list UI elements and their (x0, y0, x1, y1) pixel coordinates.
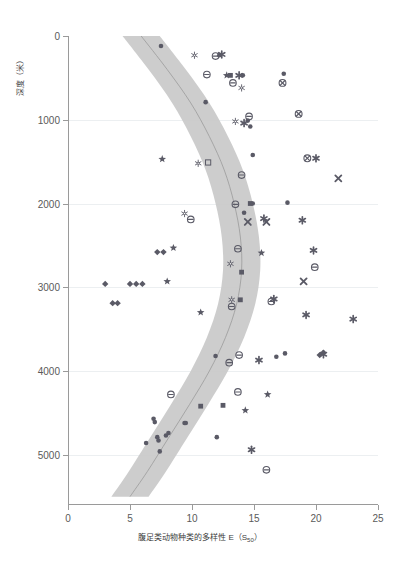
data-point (228, 261, 234, 267)
x-tick-label: 25 (372, 513, 383, 524)
y-tick-label: 2000 (38, 198, 60, 209)
x-tick (254, 505, 255, 510)
data-point (239, 270, 244, 275)
data-point (192, 52, 198, 58)
x-axis-title: 腹足类动物种类的多样性 E（S50） (138, 531, 262, 543)
data-point (229, 297, 235, 303)
y-axis-title: 深度（米） (14, 56, 25, 96)
x-tick (316, 505, 317, 510)
data-point (213, 354, 218, 359)
data-point (274, 354, 279, 359)
data-point (311, 247, 317, 254)
data-point (335, 175, 341, 181)
y-tick-label: 3000 (38, 282, 60, 293)
data-point (311, 264, 318, 271)
data-point (285, 200, 290, 205)
x-tick (192, 505, 193, 510)
data-point (156, 438, 161, 443)
data-point (350, 316, 356, 323)
y-tick-label: 1000 (38, 114, 60, 125)
data-point (281, 71, 286, 76)
data-point (235, 389, 242, 396)
data-point (228, 73, 233, 78)
scatter-chart: 深度（米） 腹足类动物种类的多样性 E（S50） 010002000300040… (0, 0, 400, 569)
data-point (303, 311, 309, 318)
x-tick (378, 505, 379, 510)
x-tick-label: 0 (65, 513, 71, 524)
data-point (242, 210, 247, 215)
data-point (235, 245, 242, 252)
data-point (245, 219, 251, 225)
data-point (163, 277, 171, 284)
x-tick-label: 10 (186, 513, 197, 524)
data-point (226, 359, 233, 366)
x-tick-label: 5 (127, 513, 133, 524)
series-circle-cross (279, 80, 311, 162)
plot-area: 010002000300040005000 0510152025 (68, 36, 378, 505)
series-open-snowflake (182, 52, 245, 303)
data-point (238, 172, 245, 179)
x-tick (68, 505, 69, 510)
data-point (250, 153, 255, 158)
data-point (313, 155, 319, 162)
data-point (242, 406, 250, 413)
data-point (182, 210, 188, 216)
data-point (197, 308, 205, 315)
data-point (102, 281, 108, 287)
data-point (248, 124, 253, 129)
x-axis-title-tail: ） (254, 533, 262, 542)
data-point (160, 249, 166, 255)
data-point (283, 351, 288, 356)
series-diamond (102, 249, 327, 358)
data-points-layer (68, 36, 378, 505)
data-point (304, 155, 311, 162)
data-point (299, 217, 305, 224)
data-point (159, 44, 164, 49)
data-point (158, 155, 166, 162)
x-tick-label: 15 (248, 513, 259, 524)
data-point (230, 80, 237, 87)
data-point (144, 441, 149, 446)
data-point (151, 416, 156, 421)
data-point (248, 201, 253, 206)
data-point (212, 53, 219, 60)
y-tick-label: 0 (54, 31, 60, 42)
data-point (157, 449, 162, 454)
data-point (184, 421, 189, 426)
series-open-square (206, 160, 211, 165)
x-axis-title-main: 腹足类动物种类的多样性 E（S (138, 533, 247, 542)
data-point (301, 278, 307, 284)
data-point (238, 297, 243, 302)
data-point (221, 403, 226, 408)
data-point (206, 160, 211, 165)
data-point (215, 435, 220, 440)
data-point (114, 300, 120, 306)
data-point (279, 80, 286, 87)
x-tick (130, 505, 131, 510)
y-tick-label: 5000 (38, 449, 60, 460)
data-point (228, 303, 235, 310)
series-star (158, 71, 271, 413)
data-point (195, 160, 201, 166)
data-point (258, 249, 266, 256)
data-point (139, 281, 145, 287)
data-point (249, 446, 255, 453)
data-point (295, 110, 302, 117)
data-point (198, 404, 203, 409)
y-tick-label: 4000 (38, 366, 60, 377)
data-point (154, 249, 160, 255)
data-point (256, 357, 262, 364)
data-point (127, 281, 133, 287)
data-point (170, 244, 178, 251)
data-point (166, 431, 171, 436)
data-point (203, 100, 208, 105)
data-point (204, 71, 211, 78)
data-point (233, 118, 239, 124)
data-point (168, 391, 175, 398)
data-point (263, 467, 270, 474)
data-point (187, 216, 194, 223)
data-point (236, 352, 243, 359)
x-axis-title-subscript: 50 (247, 537, 254, 543)
x-tick-label: 20 (310, 513, 321, 524)
data-point (133, 281, 139, 287)
